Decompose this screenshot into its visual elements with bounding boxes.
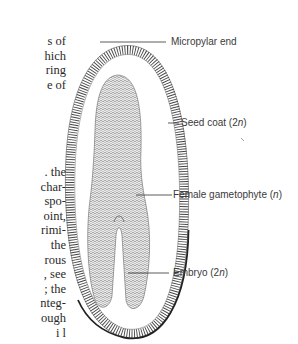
label-embryo: Embryo (2n) [173, 267, 228, 279]
seed-diagram [0, 0, 298, 344]
label-seed-coat: Seed coat (2n) [181, 117, 247, 129]
speck [241, 138, 244, 141]
female-gametophyte [88, 75, 150, 309]
label-micropylar-end: Micropylar end [171, 36, 237, 48]
label-female-gametophyte: Female gametophyte (n) [173, 189, 282, 201]
